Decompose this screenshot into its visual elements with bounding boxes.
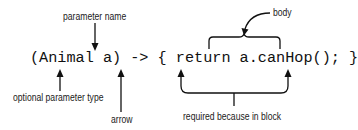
required-because-in-block-label: required because in block [183,111,281,122]
arrow-token-arrow-icon [118,69,125,112]
body-arrow-icon [242,13,271,36]
arrow-label: arrow [111,114,133,125]
body-brace-icon [209,34,280,49]
optional-parameter-type-label: optional parameter type [13,92,103,103]
parameter-name-arrow-icon [92,23,99,51]
required-bracket-icon [178,69,292,106]
body-label: body [273,7,292,18]
lambda-code: (Animal a) -> { return a.canHop(); } [30,51,358,66]
optional-parameter-type-arrow-icon [57,69,64,91]
parameter-name-label: parameter name [63,11,126,22]
